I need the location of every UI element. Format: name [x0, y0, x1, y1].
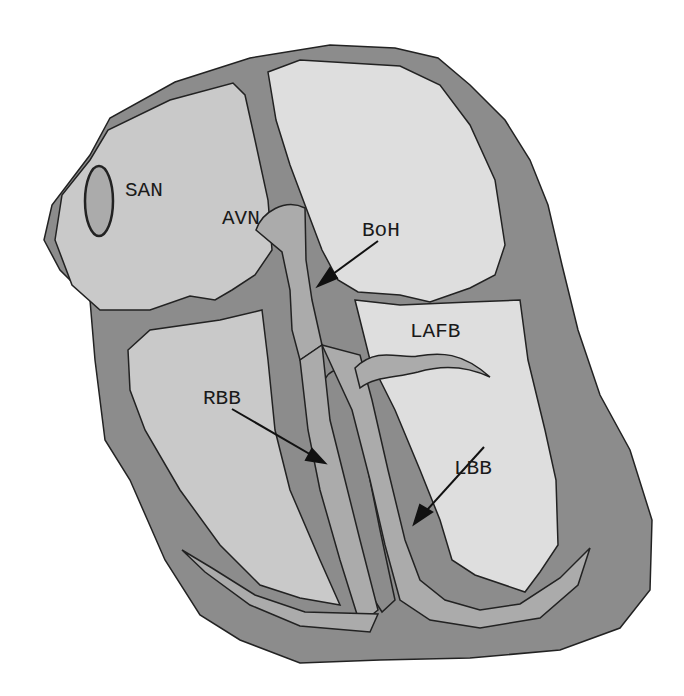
- label-lafb: LAFB: [410, 320, 460, 343]
- label-san: SAN: [125, 179, 163, 202]
- label-lbb: LBB: [454, 457, 492, 480]
- label-avn: AVN: [222, 207, 260, 230]
- label-rbb: RBB: [203, 387, 241, 410]
- heart-conduction-diagram: SAN AVN BoH LAFB RBB LBB: [0, 0, 684, 696]
- label-boh: BoH: [362, 219, 400, 242]
- sa-node: [85, 166, 113, 236]
